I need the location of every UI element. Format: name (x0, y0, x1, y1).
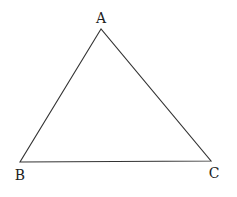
triangle-abc (20, 29, 211, 162)
vertex-label-a: A (95, 10, 107, 26)
vertex-label-b: B (15, 167, 25, 183)
triangle-diagram: A B C (0, 0, 237, 197)
vertex-label-c: C (209, 165, 220, 181)
